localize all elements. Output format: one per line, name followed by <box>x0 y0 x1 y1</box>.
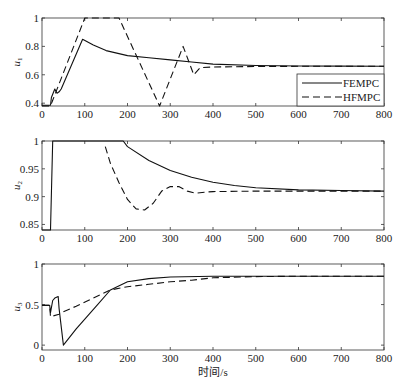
y-tick-label: 0.6 <box>25 69 39 81</box>
x-tick-label: 800 <box>376 108 393 120</box>
x-tick-label: 300 <box>162 108 179 120</box>
x-tick-label: 0 <box>39 108 45 120</box>
y-tick-label: 1 <box>34 12 40 24</box>
x-tick-label: 400 <box>205 108 222 120</box>
y-axis-label: u3 <box>10 302 24 312</box>
y-tick-label: 0.95 <box>20 163 40 175</box>
x-tick-label: 500 <box>248 232 265 244</box>
legend-label: FEMPC <box>343 77 379 89</box>
x-tick-label: 300 <box>162 352 179 364</box>
y-tick-label: 0.85 <box>20 218 40 230</box>
x-tick-label: 800 <box>376 352 393 364</box>
y-tick-label: 1 <box>34 135 40 147</box>
x-tick-label: 700 <box>333 232 350 244</box>
axes-box <box>42 141 384 230</box>
x-tick-label: 600 <box>290 108 307 120</box>
x-tick-label: 700 <box>333 352 350 364</box>
x-tick-label: 200 <box>119 108 136 120</box>
subplot-1: 01002003004005006007008000.40.60.81u1FEM… <box>10 12 393 120</box>
x-tick-label: 500 <box>248 352 265 364</box>
x-tick-label: 400 <box>205 232 222 244</box>
x-tick-label: 600 <box>290 232 307 244</box>
x-tick-label: 200 <box>119 232 136 244</box>
subplot-2: 01002003004005006007008000.850.90.951u2 <box>10 135 393 244</box>
y-tick-label: 0.5 <box>25 299 39 311</box>
chart-figure: 01002003004005006007008000.40.60.81u1FEM… <box>0 0 404 389</box>
axes-box <box>42 264 384 350</box>
x-tick-label: 500 <box>248 108 265 120</box>
y-axis-label: u1 <box>10 57 24 67</box>
series-fempc <box>42 276 384 345</box>
series-hfmpc <box>42 276 384 317</box>
series-hfmpc <box>105 147 384 210</box>
x-tick-label: 100 <box>77 232 94 244</box>
x-tick-label: 700 <box>333 108 350 120</box>
x-tick-label: 100 <box>77 352 94 364</box>
y-tick-label: 0.8 <box>25 40 39 52</box>
x-tick-label: 0 <box>39 352 45 364</box>
legend: FEMPCHFMPC <box>297 74 384 106</box>
y-tick-label: 1 <box>34 258 40 270</box>
x-tick-label: 400 <box>205 352 222 364</box>
legend-label: HFMPC <box>343 91 380 103</box>
y-tick-label: 0 <box>34 339 40 351</box>
y-tick-label: 0.9 <box>25 191 39 203</box>
x-tick-label: 100 <box>77 108 94 120</box>
series-fempc <box>42 141 384 230</box>
x-axis-label: 时间/s <box>198 366 227 378</box>
x-tick-label: 0 <box>39 232 45 244</box>
y-tick-label: 0.4 <box>25 97 39 109</box>
subplot-3: 010020030040050060070080000.51u3时间/s <box>10 258 393 378</box>
y-axis-label: u2 <box>10 181 24 191</box>
x-tick-label: 200 <box>119 352 136 364</box>
x-tick-label: 600 <box>290 352 307 364</box>
x-tick-label: 800 <box>376 232 393 244</box>
x-tick-label: 300 <box>162 232 179 244</box>
